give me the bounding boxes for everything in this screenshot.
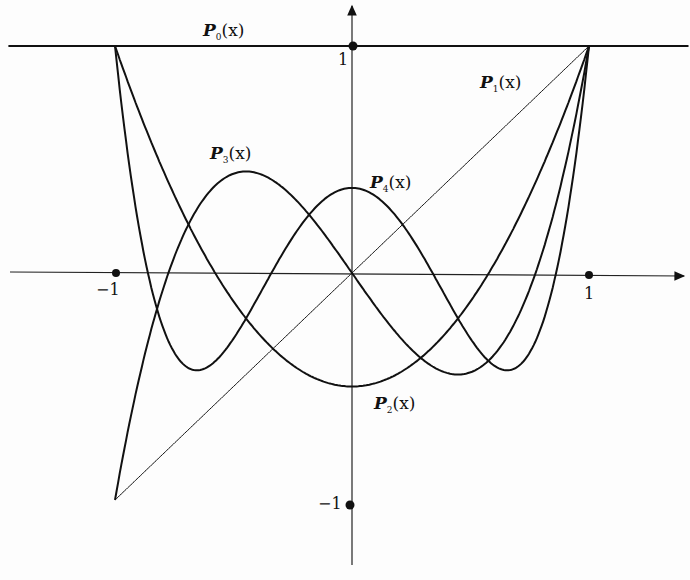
label-p0: P0(x) — [203, 20, 244, 42]
x-axis — [10, 272, 684, 276]
tick-label-y-neg1: −1 — [318, 494, 342, 513]
label-p3: P3(x) — [210, 143, 251, 165]
tick-dot-y-pos1 — [349, 42, 358, 51]
label-p2: P2(x) — [374, 393, 415, 415]
tick-label-x-pos1: 1 — [584, 284, 594, 303]
label-p1: P1(x) — [480, 72, 521, 94]
tick-label-y-pos1: 1 — [338, 50, 348, 69]
tick-dot-x-neg1 — [112, 269, 120, 277]
legendre-chart: P0(x) P1(x) P2(x) P3(x) P4(x) −1 1 1 −1 — [0, 0, 690, 580]
tick-dot-y-neg1 — [346, 501, 355, 510]
tick-dot-x-pos1 — [585, 271, 593, 279]
label-p4: P4(x) — [370, 172, 411, 194]
tick-label-x-neg1: −1 — [96, 280, 120, 299]
